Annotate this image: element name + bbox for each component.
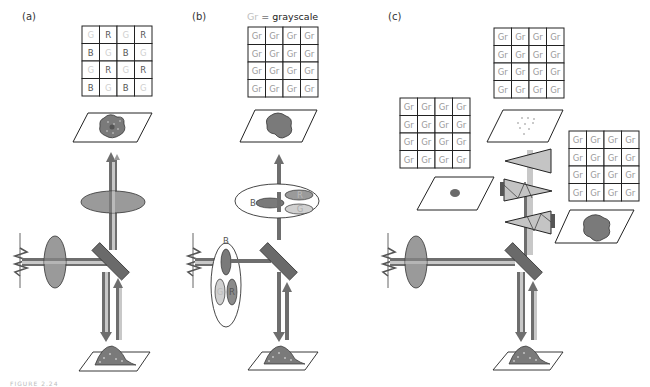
sensor-pixel-label: Gr: [287, 31, 298, 41]
sample-slide-a: [79, 346, 150, 371]
sensor-pixel-label: Gr: [515, 67, 526, 77]
image-plane-b: [240, 110, 317, 142]
sensor-pixel-label: Gr: [533, 50, 544, 60]
sensor-pixel-label: Gr: [498, 32, 509, 42]
sensor-pixel-label: Gr: [515, 85, 526, 95]
sensor-pixel-label: Gr: [573, 153, 584, 163]
sensor-pixel-label: Gr: [456, 155, 467, 165]
sensor-pixel-label: Gr: [269, 66, 280, 76]
sensor-pixel-label: Gr: [573, 188, 584, 198]
sensor-pixel-label: Gr: [456, 102, 467, 112]
bayer-sensor-grid: GRGRBGBGGRGRBGBG: [82, 26, 152, 96]
panel-a-label: (a): [22, 11, 36, 22]
sensor-pixel-label: Gr: [252, 66, 263, 76]
sensor-pixel-label: Gr: [439, 120, 450, 130]
sensor-pixel-label: Gr: [533, 85, 544, 95]
sensor-pixel-label: Gr: [404, 155, 415, 165]
svg-text:R: R: [297, 190, 303, 200]
excitation-filter-wheel: B G R: [211, 236, 241, 327]
sensor-pixel-label: Gr: [625, 153, 636, 163]
sensor-pixel-label: Gr: [590, 135, 601, 145]
sensor-pixel-label: B: [88, 48, 94, 58]
dichroic-prism-assembly: [500, 149, 555, 234]
panel-a: (a) GRGRBGBGGRGRBGBG: [15, 11, 152, 371]
image-plane-c-left: [417, 177, 494, 210]
sensor-pixel-label: B: [88, 83, 94, 93]
sensor-pixel-label: G: [87, 30, 94, 40]
sensor-pixel-label: Gr: [252, 31, 263, 41]
sensor-pixel-label: Gr: [404, 120, 415, 130]
sensor-pixel-label: Gr: [287, 84, 298, 94]
sensor-pixel-label: Gr: [590, 188, 601, 198]
grayscale-legend: Gr = grayscale: [247, 11, 318, 22]
sample-slide-b: [248, 346, 318, 370]
panel-b: (b) Gr = grayscale GrGrGrGrGrGrGrGrGrGrG…: [188, 11, 319, 370]
svg-text:R: R: [229, 287, 235, 297]
sensor-pixel-label: Gr: [404, 102, 415, 112]
sensor-pixel-label: G: [140, 48, 147, 58]
sensor-pixel-label: Gr: [269, 49, 280, 59]
sensor-pixel-label: Gr: [439, 155, 450, 165]
sensor-pixel-label: Gr: [304, 84, 315, 94]
panel-c-label: (c): [388, 11, 401, 22]
svg-text:G: G: [217, 287, 224, 297]
sensor-pixel-label: Gr: [608, 188, 619, 198]
svg-text:G: G: [297, 204, 304, 214]
grayscale-sensor-grid-c-top: GrGrGrGrGrGrGrGrGrGrGrGrGrGrGrGr: [494, 28, 564, 98]
sensor-pixel-label: R: [105, 30, 111, 40]
sensor-pixel-label: Gr: [608, 153, 619, 163]
sensor-pixel-label: Gr: [287, 66, 298, 76]
image-plane-a: [73, 113, 152, 142]
sensor-pixel-label: Gr: [590, 170, 601, 180]
sensor-pixel-label: Gr: [550, 32, 561, 42]
sensor-pixel-label: Gr: [515, 32, 526, 42]
sensor-pixel-label: Gr: [498, 85, 509, 95]
sensor-pixel-label: Gr: [625, 170, 636, 180]
sensor-pixel-label: Gr: [573, 135, 584, 145]
sensor-pixel-label: G: [105, 48, 112, 58]
sensor-pixel-label: Gr: [550, 50, 561, 60]
sensor-pixel-label: Gr: [533, 67, 544, 77]
sensor-pixel-label: Gr: [590, 153, 601, 163]
sensor-pixel-label: Gr: [421, 120, 432, 130]
sensor-pixel-label: R: [105, 65, 111, 75]
sensor-pixel-label: Gr: [439, 102, 450, 112]
sensor-pixel-label: Gr: [498, 67, 509, 77]
grayscale-sensor-grid-c-right: GrGrGrGrGrGrGrGrGrGrGrGrGrGrGrGr: [569, 131, 639, 201]
sensor-pixel-label: B: [123, 48, 129, 58]
sensor-pixel-label: Gr: [287, 49, 298, 59]
sensor-pixel-label: Gr: [252, 84, 263, 94]
image-plane-c-right: [555, 210, 634, 243]
sensor-pixel-label: Gr: [625, 135, 636, 145]
sensor-pixel-label: Gr: [456, 137, 467, 147]
svg-text:B: B: [250, 198, 256, 208]
panel-b-label: (b): [192, 11, 206, 22]
sensor-pixel-label: Gr: [608, 135, 619, 145]
sensor-pixel-label: Gr: [550, 85, 561, 95]
sensor-pixel-label: Gr: [456, 120, 467, 130]
sensor-pixel-label: Gr: [421, 137, 432, 147]
sensor-pixel-label: Gr: [269, 84, 280, 94]
sensor-pixel-label: Gr: [550, 67, 561, 77]
svg-text:B: B: [223, 236, 229, 246]
grayscale-sensor-grid-b: GrGrGrGrGrGrGrGrGrGrGrGrGrGrGrGr: [248, 27, 318, 97]
grayscale-sensor-grid-c-left: GrGrGrGrGrGrGrGrGrGrGrGrGrGrGrGr: [400, 98, 470, 168]
sensor-pixel-label: G: [122, 65, 129, 75]
sensor-pixel-label: Gr: [404, 137, 415, 147]
sensor-pixel-label: Gr: [515, 50, 526, 60]
sensor-pixel-label: Gr: [252, 49, 263, 59]
sensor-pixel-label: Gr: [573, 170, 584, 180]
sensor-pixel-label: G: [105, 83, 112, 93]
sensor-pixel-label: G: [122, 30, 129, 40]
sensor-pixel-label: G: [140, 83, 147, 93]
sensor-pixel-label: Gr: [625, 188, 636, 198]
sensor-pixel-label: G: [87, 65, 94, 75]
sensor-pixel-label: Gr: [421, 102, 432, 112]
sensor-pixel-label: Gr: [269, 31, 280, 41]
image-plane-c-top: [487, 110, 563, 142]
sample-slide-c: [493, 346, 563, 370]
sensor-pixel-label: R: [140, 30, 146, 40]
sensor-pixel-label: Gr: [498, 50, 509, 60]
figure-caption: FIGURE 2.24: [10, 380, 59, 387]
sensor-pixel-label: Gr: [533, 32, 544, 42]
